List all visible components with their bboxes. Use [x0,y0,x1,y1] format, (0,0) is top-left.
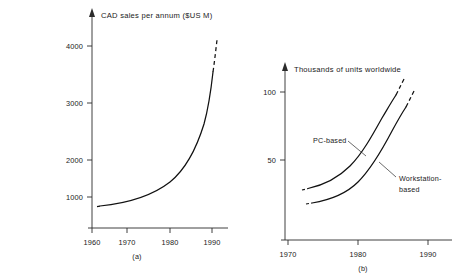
panel-b-curve-pc-based-extrapolated [396,79,404,95]
panel-b-series-label-workstation-based-line1: Workstation- [399,174,442,183]
panel-a-ytick-label-2000: 2000 [66,156,83,165]
panel-a-label: (a) [132,252,141,261]
panel-a-y-axis-title: CAD sales per annum ($US M) [101,11,213,20]
panel-b-curve-workstation-based-extrapolated [406,91,414,107]
panel-b-ytick-label-100: 100 [263,88,276,97]
panel-a-curve-cad-sales [100,72,213,206]
panel-b-series-label-workstation-based-line2: based [399,185,420,194]
panel-b-curve-workstation-based-start-stub [306,203,312,204]
panel-b-ytick-label-50: 50 [267,156,276,165]
panel-a-ytick-label-1000: 1000 [66,193,83,202]
panel-b-y-axis-title: Thousands of units worldwide [294,65,401,74]
panel-a-xtick-label-1960: 1960 [83,238,100,247]
figure-canvas: CAD sales per annum ($US M) 4000 3000 20… [0,0,455,273]
panel-b-xtick-label-1990: 1990 [419,250,436,259]
panel-a-xtick-label-1970: 1970 [118,238,135,247]
panel-b-series-label-pc-based: PC-based [313,136,347,145]
panel-a-xtick-label-1990: 1990 [203,238,220,247]
panel-a-y-axis-arrow-icon [89,8,95,17]
figure-container: CAD sales per annum ($US M) 4000 3000 20… [0,0,455,273]
panel-b-curve-pc-based-start-stub [302,189,308,191]
panel-a-ytick-label-3000: 3000 [66,99,83,108]
panel-b-xtick-label-1980: 1980 [349,250,366,259]
panel-a-ytick-label-4000: 4000 [66,42,83,51]
panel-a-curve-cad-sales-extrapolated [213,40,217,72]
panel-b-label: (b) [358,264,367,273]
panel-b: Thousands of units worldwide 100 50 1970… [263,62,452,273]
panel-a-xtick-label-1980: 1980 [161,238,178,247]
panel-b-y-axis-arrow-icon [282,62,288,71]
panel-a: CAD sales per annum ($US M) 4000 3000 20… [66,8,228,261]
panel-b-xtick-label-1970: 1970 [279,250,296,259]
panel-b-leader-line-workstation-based [379,162,396,177]
